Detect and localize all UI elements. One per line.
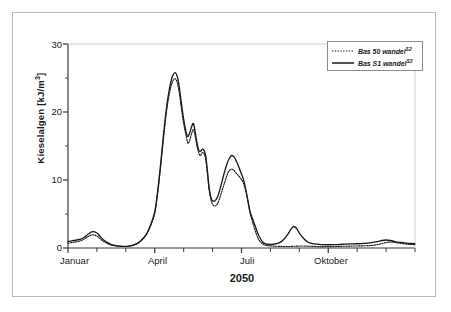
x-tick-label-april: April [148, 255, 167, 266]
y-axis-title-text: Kieselalgen [kJ/m [35, 80, 46, 164]
series-line-1 [68, 73, 415, 247]
legend-label-1-superscript: S3 [406, 58, 412, 64]
legend-item-1: Bas S1 wandelS3 [332, 57, 418, 69]
figure-container: 30 20 10 0 Januar April Juli Oktober Kie… [0, 0, 451, 312]
legend-label-0: Bas 50 wandelS2 [358, 46, 412, 55]
legend-label-1: Bas S1 wandelS3 [358, 58, 412, 67]
series-line-0 [68, 79, 415, 247]
y-tick-label-0: 0 [38, 242, 62, 253]
axis-layer [63, 44, 415, 253]
chart-legend: Bas 50 wandelS2 Bas S1 wandelS3 [327, 41, 423, 71]
legend-item-0: Bas 50 wandelS2 [332, 45, 418, 57]
plot-wrapper: 30 20 10 0 Januar April Juli Oktober Kie… [0, 0, 451, 312]
legend-label-0-text: Bas 50 wandel [358, 49, 406, 56]
x-tick-label-juli: Juli [240, 255, 254, 266]
series-layer [68, 73, 415, 247]
x-tick-label-januar: Januar [60, 255, 89, 266]
legend-label-0-superscript: S2 [406, 46, 412, 52]
legend-swatch-dotted-icon [332, 47, 354, 55]
legend-swatch-solid-icon [332, 59, 354, 67]
y-axis-title: Kieselalgen [kJ/m3] [34, 18, 46, 218]
legend-label-1-text: Bas S1 wandel [358, 61, 406, 68]
y-axis-title-superscript: 3 [34, 76, 41, 80]
x-axis-title: 2050 [68, 272, 416, 284]
x-tick-label-oktober: Oktober [314, 255, 348, 266]
y-axis-title-bracket: ] [35, 73, 46, 76]
